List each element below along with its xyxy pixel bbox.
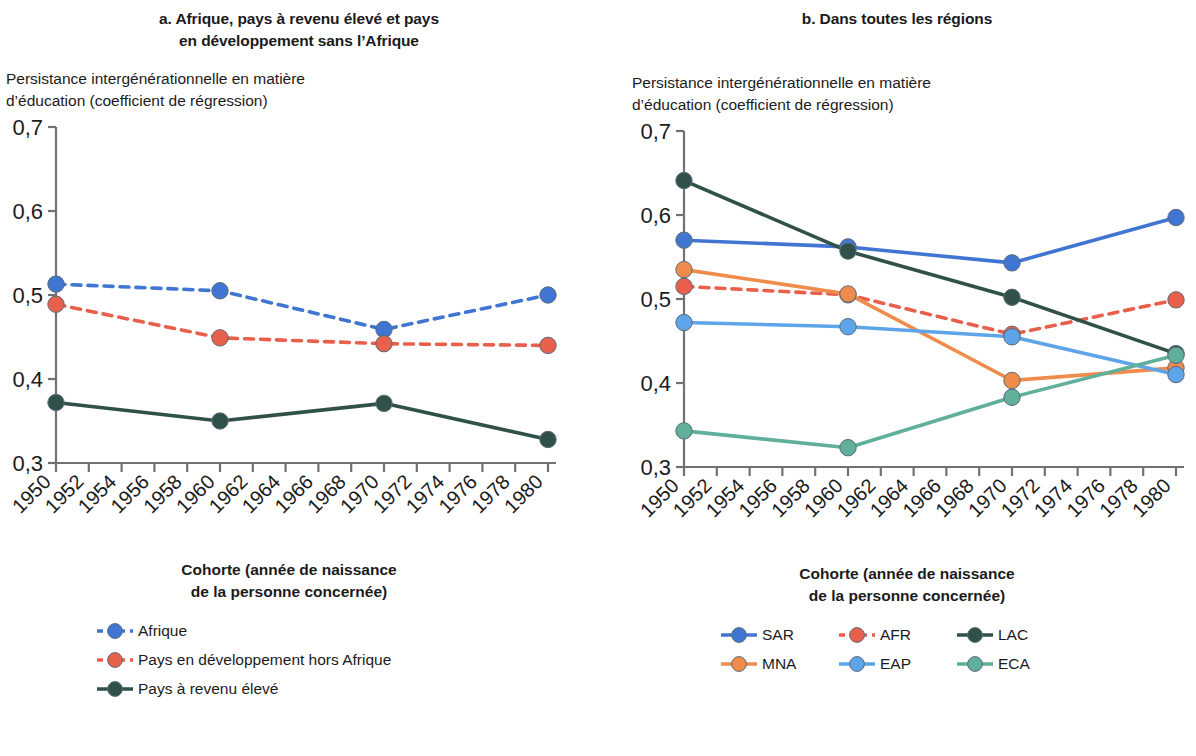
legend-item-sar[interactable]: SAR xyxy=(720,625,838,645)
legend-label: Pays à revenu élevé xyxy=(134,680,278,698)
panel-a-legend: AfriquePays en développement hors Afriqu… xyxy=(0,603,598,704)
panel-b-plot-area: 0,30,40,50,60,71950195219541956195819601… xyxy=(598,117,1196,557)
y-tick-label: 0,7 xyxy=(640,119,671,144)
series-line-eap xyxy=(684,322,1176,374)
legend-label: Afrique xyxy=(134,622,187,640)
data-point xyxy=(212,283,228,299)
data-point xyxy=(48,296,64,312)
legend-label: SAR xyxy=(758,626,794,644)
data-point xyxy=(840,243,856,259)
legend-item-afr[interactable]: AFR xyxy=(838,625,956,645)
data-point xyxy=(1004,289,1020,305)
series-line-afrique xyxy=(56,284,548,329)
panel-b: b. Dans toutes les régions Persistance i… xyxy=(598,0,1196,756)
y-tick-label: 0,4 xyxy=(12,367,43,392)
legend-marker-afr xyxy=(838,625,876,645)
data-point xyxy=(48,276,64,292)
legend-marker-eap xyxy=(838,654,876,674)
panel-b-y-axis-caption: Persistance intergénérationnelle en mati… xyxy=(598,30,1196,117)
legend-item-afrique[interactable]: Afrique xyxy=(96,621,187,641)
data-point xyxy=(540,287,556,303)
legend-marker-sar xyxy=(720,625,758,645)
data-point xyxy=(376,395,392,411)
data-point xyxy=(1168,209,1184,225)
data-point xyxy=(1004,389,1020,405)
legend-item-mna[interactable]: MNA xyxy=(720,654,838,674)
data-point xyxy=(676,172,692,188)
legend-label: ECA xyxy=(994,655,1030,673)
y-tick-label: 0,5 xyxy=(640,287,671,312)
panel-b-x-axis-caption: Cohorte (année de naissancede la personn… xyxy=(598,557,1196,607)
data-point xyxy=(1168,292,1184,308)
panel-a-plot-area: 0,30,40,50,60,71950195219541956195819601… xyxy=(0,113,598,553)
legend-marker-afrique xyxy=(96,621,134,641)
legend-marker-lac xyxy=(956,625,994,645)
data-point xyxy=(1004,255,1020,271)
data-point xyxy=(540,337,556,353)
legend-row: Pays en développement hors Afrique xyxy=(96,646,598,675)
legend-row: MNAEAPECA xyxy=(720,650,1074,679)
legend-marker-pays-revenu-lev- xyxy=(96,679,134,699)
legend-label: LAC xyxy=(994,626,1028,644)
legend-row: SARAFRLAC xyxy=(720,621,1074,650)
panel-a-y-axis-caption: Persistance intergénérationnelle en mati… xyxy=(0,52,598,113)
y-tick-label: 0,7 xyxy=(12,115,43,140)
series-line-sar xyxy=(684,217,1176,262)
data-point xyxy=(840,439,856,455)
data-point xyxy=(676,314,692,330)
legend-label: Pays en développement hors Afrique xyxy=(134,651,391,669)
y-tick-label: 0,6 xyxy=(12,199,43,224)
data-point xyxy=(676,232,692,248)
legend-marker-mna xyxy=(720,654,758,674)
panel-b-chart: 0,30,40,50,60,71950195219541956195819601… xyxy=(598,117,1196,557)
data-point xyxy=(676,261,692,277)
data-point xyxy=(676,278,692,294)
data-point xyxy=(1004,372,1020,388)
panel-a-x-axis-caption: Cohorte (année de naissancede la personn… xyxy=(0,553,598,603)
data-point xyxy=(840,286,856,302)
y-tick-label: 0,4 xyxy=(640,371,671,396)
panel-a-chart: 0,30,40,50,60,71950195219541956195819601… xyxy=(0,113,598,553)
legend-label: EAP xyxy=(876,655,911,673)
x-tick-label: 1980 xyxy=(1128,474,1175,521)
legend-marker-pays-en-d-veloppement-hors-afrique xyxy=(96,650,134,670)
data-point xyxy=(48,394,64,410)
data-point xyxy=(1168,366,1184,382)
panel-b-title: b. Dans toutes les régions xyxy=(598,0,1196,30)
legend-label: MNA xyxy=(758,655,796,673)
series-line-eca xyxy=(684,355,1176,447)
x-tick-label: 1980 xyxy=(500,470,547,517)
series-line-lac xyxy=(684,180,1176,353)
y-tick-label: 0,6 xyxy=(640,203,671,228)
data-point xyxy=(676,423,692,439)
panel-b-legend: SARAFRLACMNAEAPECA xyxy=(598,607,1196,679)
legend-item-eca[interactable]: ECA xyxy=(956,654,1074,674)
data-point xyxy=(212,413,228,429)
legend-item-eap[interactable]: EAP xyxy=(838,654,956,674)
panel-a: a. Afrique, pays à revenu élevé et payse… xyxy=(0,0,598,756)
legend-item-pays-en-d-veloppement-hors-afrique[interactable]: Pays en développement hors Afrique xyxy=(96,650,391,670)
legend-row: Afrique xyxy=(96,617,598,646)
data-point xyxy=(1004,329,1020,345)
legend-row: Pays à revenu élevé xyxy=(96,675,598,704)
legend-item-lac[interactable]: LAC xyxy=(956,625,1074,645)
data-point xyxy=(1168,347,1184,363)
data-point xyxy=(540,431,556,447)
legend-item-pays-revenu-lev-[interactable]: Pays à revenu élevé xyxy=(96,679,278,699)
series-line-pays-revenu-lev- xyxy=(56,402,548,439)
data-point xyxy=(212,330,228,346)
panel-a-title: a. Afrique, pays à revenu élevé et payse… xyxy=(0,0,598,52)
y-tick-label: 0,5 xyxy=(12,283,43,308)
figure: a. Afrique, pays à revenu élevé et payse… xyxy=(0,0,1196,756)
data-point xyxy=(840,318,856,334)
data-point xyxy=(376,335,392,351)
legend-label: AFR xyxy=(876,626,911,644)
legend-marker-eca xyxy=(956,654,994,674)
